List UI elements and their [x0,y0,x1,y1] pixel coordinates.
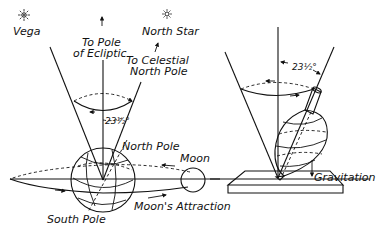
moons-attraction-label: Moon's Attraction [134,200,231,213]
top-precession-arrow-bottom-icon [290,95,299,96]
spinning-top [275,86,327,180]
north-pole-direction-label: North Pole [130,65,188,78]
of-ecliptic-label: of Ecliptic [73,47,127,60]
precession-cone-left-line [50,47,103,180]
top-cone-left-line [225,52,278,178]
moon-label: Moon [180,152,210,165]
north-star-label: North Star [142,25,200,38]
platform-side [228,185,343,193]
orbit-arrow-top-icon [162,165,175,166]
gravitation-label: Gravitation [314,171,376,184]
vega-star-icon [18,9,30,21]
north-star-icon [162,9,172,19]
angle-label-right: 23½° [292,62,317,72]
south-pole-label: South Pole [47,213,106,226]
celestial-pole-arrow-icon [155,43,158,52]
angle-label-left: 23½° [105,116,130,126]
vega-label: Vega [13,25,41,38]
north-pole-label: North Pole [122,140,180,153]
angle-arrow-left-icon [281,62,288,63]
precession-diagram: Vega North Star To Pole of Ecliptic To C… [0,0,376,231]
spinning-top-panel: 23½° Gravitation [210,27,376,193]
moons-attraction-arrow-icon [148,195,166,198]
earth-precession-panel: Vega North Star To Pole of Ecliptic To C… [10,9,231,226]
moon-circle [181,168,205,192]
moon-orbit-front [10,179,188,193]
